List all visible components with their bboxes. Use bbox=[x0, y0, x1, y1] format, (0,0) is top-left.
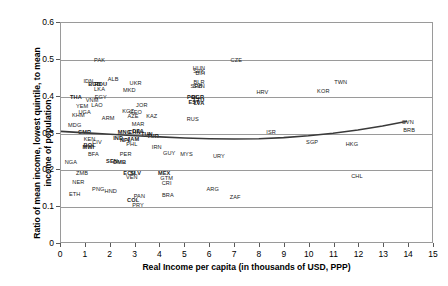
x-tick-mark bbox=[135, 243, 136, 247]
plot-area: PAKCZEHUNSVKBIHIDNALBBGDUKRROUBLRSVNSRBL… bbox=[60, 22, 433, 243]
x-tick-label: 7 bbox=[224, 249, 244, 259]
y-tick-label: 0.1 bbox=[28, 202, 54, 210]
x-tick-mark bbox=[334, 243, 335, 247]
x-tick-label: 11 bbox=[324, 249, 344, 259]
x-tick-label: 9 bbox=[274, 249, 294, 259]
y-tick-label: 0.6 bbox=[28, 18, 54, 26]
x-tick-label: 0 bbox=[50, 249, 70, 259]
y-tick-label: 0.5 bbox=[28, 55, 54, 63]
x-tick-label: 10 bbox=[299, 249, 319, 259]
x-tick-mark bbox=[383, 243, 384, 247]
y-tick-label: 0.2 bbox=[28, 165, 54, 173]
x-tick-mark bbox=[60, 243, 61, 247]
y-axis-label: Ratio of mean income, lowest quintile, t… bbox=[32, 38, 54, 248]
x-tick-label: 14 bbox=[398, 249, 418, 259]
x-tick-mark bbox=[184, 243, 185, 247]
x-tick-mark bbox=[159, 243, 160, 247]
x-tick-label: 12 bbox=[348, 249, 368, 259]
x-axis-label: Real Income per capita (in thousands of … bbox=[60, 262, 433, 272]
x-tick-label: 5 bbox=[174, 249, 194, 259]
x-tick-mark bbox=[259, 243, 260, 247]
x-tick-mark bbox=[309, 243, 310, 247]
x-tick-label: 4 bbox=[149, 249, 169, 259]
scatter-chart: Ratio of mean income, lowest quintile, t… bbox=[0, 0, 448, 286]
trend-line bbox=[61, 23, 432, 242]
y-tick-label: 0 bbox=[28, 239, 54, 247]
x-tick-label: 6 bbox=[199, 249, 219, 259]
x-tick-label: 15 bbox=[423, 249, 443, 259]
x-tick-mark bbox=[209, 243, 210, 247]
x-tick-mark bbox=[110, 243, 111, 247]
x-tick-mark bbox=[408, 243, 409, 247]
x-tick-label: 2 bbox=[100, 249, 120, 259]
y-tick-label: 0.4 bbox=[28, 92, 54, 100]
x-tick-label: 3 bbox=[125, 249, 145, 259]
x-tick-label: 8 bbox=[249, 249, 269, 259]
x-tick-label: 13 bbox=[373, 249, 393, 259]
x-tick-mark bbox=[358, 243, 359, 247]
x-tick-label: 1 bbox=[75, 249, 95, 259]
x-tick-mark bbox=[284, 243, 285, 247]
x-tick-mark bbox=[433, 243, 434, 247]
x-tick-mark bbox=[234, 243, 235, 247]
x-tick-mark bbox=[85, 243, 86, 247]
y-tick-label: 0.3 bbox=[28, 129, 54, 137]
